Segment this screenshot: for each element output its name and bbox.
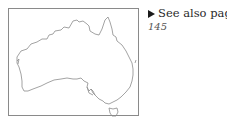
- see-also-label: See also page: [158, 6, 227, 20]
- spencer-gulf: [87, 87, 95, 95]
- page-number-link[interactable]: 145: [148, 21, 167, 32]
- tasmania-outline: [109, 108, 118, 116]
- see-also-reference[interactable]: See also page: [148, 7, 227, 20]
- cape-york-tip: [135, 60, 136, 63]
- australia-outline-map: [9, 9, 140, 117]
- right-triangle-arrow-icon: [148, 10, 155, 18]
- mainland-outline: [17, 17, 133, 104]
- map-frame: [8, 8, 139, 116]
